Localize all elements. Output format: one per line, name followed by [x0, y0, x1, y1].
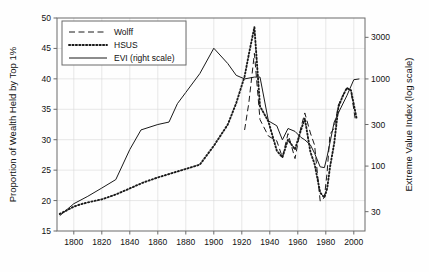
y2-axis-title: Extreme Value Index (log scale)	[403, 58, 414, 192]
y2-tick-label: 300	[371, 120, 385, 130]
x-tick-label: 1820	[92, 237, 111, 247]
x-tick-label: 2000	[344, 237, 363, 247]
y-tick-label: 20	[42, 196, 52, 206]
y-tick-label: 35	[42, 104, 52, 114]
x-tick-label: 1980	[316, 237, 335, 247]
y-tick-label: 15	[42, 226, 52, 236]
legend-label-wolff: Wolff	[114, 27, 134, 37]
x-tick-label: 1920	[232, 237, 251, 247]
y2-tick-label: 1000	[371, 74, 390, 84]
y2-tick-label: 30	[371, 207, 381, 217]
y-axis-title: Proportion of Wealth Held by Top 1%	[7, 46, 18, 202]
series-line-evi	[60, 48, 360, 215]
series-line-wolff	[245, 53, 356, 201]
y-tick-label: 50	[42, 13, 52, 23]
y-tick-label: 40	[42, 74, 52, 84]
y-tick-label: 45	[42, 43, 52, 53]
chart-figure: 1800182018401860188019001920194019601980…	[0, 0, 429, 272]
y2-tick-label: 3000	[371, 32, 390, 42]
x-tick-label: 1880	[176, 237, 195, 247]
x-tick-label: 1860	[148, 237, 167, 247]
x-tick-label: 1960	[288, 237, 307, 247]
legend-label-evi: EVI (right scale)	[114, 53, 175, 63]
x-tick-label: 1900	[204, 237, 223, 247]
y2-tick-label: 100	[371, 161, 385, 171]
x-tick-label: 1840	[120, 237, 139, 247]
y-tick-label: 25	[42, 165, 52, 175]
y-tick-label: 30	[42, 135, 52, 145]
x-tick-label: 1800	[64, 237, 83, 247]
x-tick-label: 1940	[260, 237, 279, 247]
legend-label-hsus: HSUS	[114, 40, 138, 50]
wealth-share-evi-chart: 1800182018401860188019001920194019601980…	[0, 0, 429, 272]
